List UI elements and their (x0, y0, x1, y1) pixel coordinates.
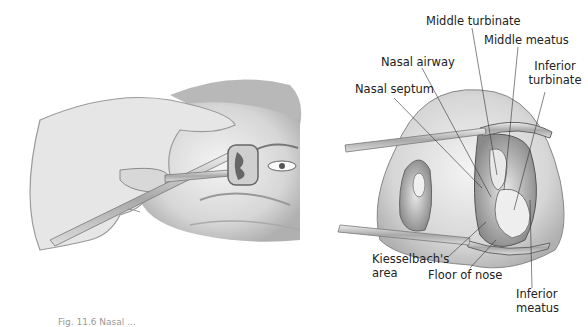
label-middle-meatus: Middle meatus (484, 33, 569, 47)
label-inferior-meatus-line2: meatus (516, 301, 559, 315)
speculum-head (228, 145, 258, 185)
label-inferior-turbinate-line2: turbinate (527, 73, 583, 87)
label-nasal-septum: Nasal septum (355, 82, 434, 96)
right-illustration (338, 90, 564, 268)
label-inferior-turbinate-line1: Inferior (527, 59, 583, 73)
label-floor-of-nose: Floor of nose (428, 268, 502, 282)
label-nasal-airway: Nasal airway (381, 55, 455, 69)
left-illustration (30, 79, 301, 250)
label-inferior-meatus: Inferior meatus (516, 287, 559, 315)
label-middle-turbinate: Middle turbinate (426, 14, 521, 28)
label-kiesselbach-line1: Kiesselbach's (372, 252, 449, 266)
label-inferior-meatus-line1: Inferior (516, 287, 559, 301)
figure-caption-fragment: Fig. 11.6 Nasal ... (58, 317, 136, 327)
label-inferior-turbinate: Inferior turbinate (527, 59, 583, 87)
iris-icon (279, 163, 285, 169)
